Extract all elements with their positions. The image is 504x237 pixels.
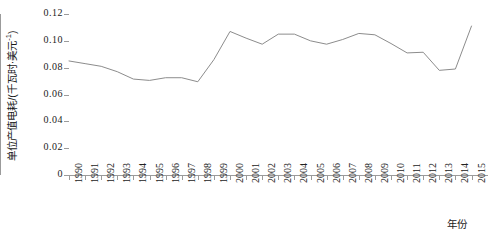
x-axis-tick bbox=[85, 176, 86, 180]
x-axis-title: 年份 bbox=[447, 216, 467, 231]
x-axis-tick-label: 2000 bbox=[234, 163, 245, 183]
x-axis-tick bbox=[391, 176, 392, 180]
x-axis-tick bbox=[327, 176, 328, 180]
x-axis-tick bbox=[246, 176, 247, 180]
x-axis-tick bbox=[133, 176, 134, 180]
x-axis-tick bbox=[69, 176, 70, 180]
x-axis-tick bbox=[198, 176, 199, 180]
x-axis-tick-label: 1998 bbox=[202, 163, 213, 183]
y-axis-tick-label: 0.02 bbox=[23, 141, 63, 152]
y-axis-title: 单位产值电耗/(千瓦时·美元-1) bbox=[0, 0, 22, 190]
x-axis-tick-label: 2004 bbox=[298, 163, 309, 183]
x-axis-tick bbox=[230, 176, 231, 180]
x-axis-tick-label: 1992 bbox=[105, 163, 116, 183]
x-axis-tick-label: 2014 bbox=[459, 163, 470, 183]
x-axis-tick-label: 1996 bbox=[170, 163, 181, 183]
x-axis-tick-label: 2013 bbox=[443, 163, 454, 183]
x-axis-tick bbox=[294, 176, 295, 180]
x-axis-tick-label: 1997 bbox=[186, 163, 197, 183]
x-axis-tick bbox=[278, 176, 279, 180]
x-axis-tick bbox=[117, 176, 118, 180]
x-axis-tick-label: 1994 bbox=[137, 163, 148, 183]
x-axis-tick bbox=[359, 176, 360, 180]
y-axis-title-main: 单位产值电耗/(千瓦时·美元 bbox=[6, 40, 18, 160]
x-axis-tick-label: 2005 bbox=[315, 163, 326, 183]
x-axis-tick-label: 1990 bbox=[73, 163, 84, 183]
x-axis-tick-label: 2010 bbox=[395, 163, 406, 183]
y-axis-tick bbox=[64, 68, 69, 69]
x-axis-tick bbox=[407, 176, 408, 180]
y-axis-title-exponent: -1 bbox=[4, 33, 13, 40]
y-axis-tick-label: 0.04 bbox=[23, 114, 63, 125]
y-axis-tick bbox=[64, 95, 69, 96]
x-axis-tick bbox=[439, 176, 440, 180]
x-axis-tick-label: 2011 bbox=[411, 163, 422, 183]
y-axis-tick-label: 0.12 bbox=[23, 7, 63, 18]
x-axis-tick bbox=[101, 176, 102, 180]
y-axis-tick bbox=[64, 121, 69, 122]
x-axis-tick-label: 2009 bbox=[379, 163, 390, 183]
chart-figure: 单位产值电耗/(千瓦时·美元-1) 0.120.100.080.060.040.… bbox=[0, 0, 504, 237]
y-axis-tick bbox=[64, 14, 69, 15]
x-axis-tick bbox=[214, 176, 215, 180]
x-axis-tick-label: 2015 bbox=[476, 163, 487, 183]
y-axis-tick bbox=[64, 148, 69, 149]
x-axis-tick-label: 1999 bbox=[218, 163, 229, 183]
x-axis-tick-label: 2003 bbox=[282, 163, 293, 183]
y-axis-tick-label: 0.10 bbox=[23, 34, 63, 45]
x-axis-tick-label: 2002 bbox=[266, 163, 277, 183]
x-axis-tick-label: 2008 bbox=[363, 163, 374, 183]
y-axis-title-tail: ) bbox=[6, 30, 18, 34]
x-axis-tick bbox=[472, 176, 473, 180]
x-axis-tick-label: 2007 bbox=[347, 163, 358, 183]
x-axis-tick bbox=[423, 176, 424, 180]
y-axis-tick-label: 0.06 bbox=[23, 88, 63, 99]
x-axis-tick bbox=[343, 176, 344, 180]
x-axis-tick-label: 1991 bbox=[89, 163, 100, 183]
y-axis-line bbox=[0, 14, 1, 175]
series-plot-area bbox=[0, 0, 504, 237]
x-axis-tick bbox=[166, 176, 167, 180]
y-axis-tick-label: 0 bbox=[23, 168, 63, 179]
x-axis-tick bbox=[455, 176, 456, 180]
y-axis-tick bbox=[64, 41, 69, 42]
x-axis-tick-label: 1995 bbox=[154, 163, 165, 183]
series-line-electricity-intensity bbox=[69, 26, 472, 82]
x-axis-tick bbox=[311, 176, 312, 180]
x-axis-tick-label: 2006 bbox=[331, 163, 342, 183]
x-axis-tick-label: 1993 bbox=[121, 163, 132, 183]
y-axis-tick-label: 0.08 bbox=[23, 61, 63, 72]
x-axis-tick-label: 2001 bbox=[250, 163, 261, 183]
x-axis-tick bbox=[150, 176, 151, 180]
x-axis-tick bbox=[375, 176, 376, 180]
x-axis-tick bbox=[262, 176, 263, 180]
x-axis-tick-label: 2012 bbox=[427, 163, 438, 183]
x-axis-tick bbox=[182, 176, 183, 180]
